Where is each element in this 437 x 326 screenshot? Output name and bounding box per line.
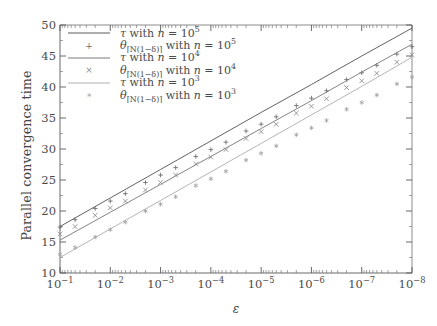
x-tick-label: 10−5 bbox=[248, 277, 275, 291]
data-point-marker bbox=[294, 132, 298, 137]
data-point-marker bbox=[375, 93, 379, 98]
data-point-marker bbox=[123, 191, 128, 196]
legend-item: τ with n = 103 bbox=[66, 77, 236, 89]
data-point-marker bbox=[324, 96, 329, 101]
x-tick-label: 10−7 bbox=[348, 277, 375, 291]
x-tick-label: 10−1 bbox=[47, 277, 74, 291]
chart-figure: Parallel convergence time 10152025303540… bbox=[0, 0, 437, 326]
data-point-marker bbox=[259, 151, 263, 156]
data-point-marker bbox=[194, 183, 198, 188]
data-point-marker bbox=[375, 71, 380, 76]
data-point-marker bbox=[294, 103, 299, 108]
data-point-marker bbox=[360, 100, 364, 105]
legend-line-sample-icon bbox=[68, 82, 110, 83]
data-point-marker bbox=[158, 173, 163, 178]
legend-label: τ with n = 104 bbox=[120, 51, 200, 64]
data-point-marker bbox=[344, 85, 349, 90]
x-tick-label: 10−6 bbox=[298, 277, 325, 291]
data-point-marker bbox=[159, 202, 163, 207]
legend-key bbox=[66, 52, 112, 64]
legend-key bbox=[66, 77, 112, 89]
data-point-marker bbox=[259, 122, 264, 127]
data-point-marker bbox=[108, 199, 113, 204]
data-point-marker bbox=[294, 111, 299, 116]
x-tick-label: 10−4 bbox=[197, 277, 224, 291]
x-tick-label: 10−2 bbox=[97, 277, 124, 291]
data-point-marker bbox=[58, 252, 62, 257]
data-point-marker bbox=[193, 154, 198, 159]
data-point-marker bbox=[325, 118, 329, 123]
legend-item: ∗θ⌈N(1−δ)⌉ with n = 103 bbox=[66, 89, 236, 101]
data-point-marker bbox=[309, 126, 313, 131]
data-point-marker bbox=[224, 140, 229, 145]
legend-label: τ with n = 103 bbox=[120, 76, 200, 89]
data-point-marker bbox=[259, 129, 264, 134]
data-point-marker bbox=[209, 147, 214, 152]
legend-line-sample-icon bbox=[68, 57, 110, 58]
chart-legend: τ with n = 105+θ⌈N(1−δ)⌉ with n = 105τ w… bbox=[66, 27, 236, 101]
legend-key: × bbox=[66, 64, 112, 76]
data-point-marker bbox=[123, 220, 127, 225]
data-point-marker bbox=[93, 213, 98, 218]
data-point-marker bbox=[143, 180, 148, 185]
data-point-marker bbox=[274, 114, 279, 119]
legend-key: ∗ bbox=[66, 89, 112, 101]
x-tick-label: 10−3 bbox=[147, 277, 174, 291]
legend-marker-icon: + bbox=[85, 41, 93, 50]
legend-key bbox=[66, 27, 112, 39]
data-point-marker bbox=[359, 79, 364, 84]
data-point-marker bbox=[244, 129, 249, 134]
legend-line-sample-icon bbox=[68, 33, 110, 34]
data-point-marker bbox=[309, 104, 314, 109]
legend-label: θ⌈N(1−δ)⌉ with n = 104 bbox=[120, 64, 236, 77]
data-point-marker bbox=[244, 158, 248, 163]
data-point-marker bbox=[395, 82, 399, 87]
legend-marker-icon: ∗ bbox=[86, 91, 92, 100]
legend-marker-icon: × bbox=[85, 66, 93, 75]
data-point-marker bbox=[108, 206, 113, 211]
legend-item: +θ⌈N(1−δ)⌉ with n = 105 bbox=[66, 39, 236, 51]
data-point-marker bbox=[345, 107, 349, 112]
data-point-marker bbox=[410, 75, 414, 80]
data-point-marker bbox=[73, 217, 78, 222]
data-point-marker bbox=[274, 122, 279, 127]
data-point-marker bbox=[274, 144, 278, 149]
legend-item: τ with n = 105 bbox=[66, 27, 236, 39]
data-point-marker bbox=[73, 245, 77, 250]
data-point-marker bbox=[173, 165, 178, 170]
legend-key: + bbox=[66, 40, 112, 52]
data-point-marker bbox=[395, 60, 400, 65]
x-tick-label: 10−8 bbox=[399, 277, 426, 291]
data-point-marker bbox=[174, 194, 178, 199]
data-point-marker bbox=[143, 188, 148, 193]
legend-item: ×θ⌈N(1−δ)⌉ with n = 104 bbox=[66, 64, 236, 76]
data-point-marker bbox=[209, 176, 213, 181]
legend-item: τ with n = 104 bbox=[66, 52, 236, 64]
data-point-marker bbox=[224, 169, 228, 174]
data-point-marker bbox=[123, 199, 128, 204]
data-point-marker bbox=[73, 224, 78, 229]
legend-label: τ with n = 105 bbox=[120, 27, 200, 40]
legend-label: θ⌈N(1−δ)⌉ with n = 103 bbox=[120, 89, 236, 102]
